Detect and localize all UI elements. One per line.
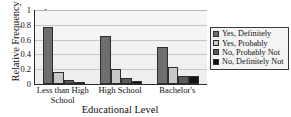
bar [53, 72, 64, 84]
bar [121, 78, 132, 84]
bar [189, 76, 200, 84]
legend-swatch-icon [213, 31, 219, 37]
bar [100, 36, 111, 84]
chart-legend: Yes, DefinitelyYes, ProbablyNo, Probably… [210, 27, 289, 70]
bar [132, 81, 143, 84]
legend-item: Yes, Probably [213, 38, 286, 47]
legend-item-label: Yes, Probably [222, 39, 268, 48]
bar [157, 47, 168, 84]
bars-layer [35, 10, 207, 84]
bar-group [100, 10, 142, 84]
plot-area [34, 10, 207, 85]
x-axis-title: Educational Level [34, 104, 206, 115]
x-tick-label: Less than High School [34, 86, 91, 105]
legend-item-label: Yes, Definitely [222, 29, 271, 38]
legend-item-label: No, Definitely Not [222, 57, 284, 66]
y-tick-label: 0.4 [13, 50, 31, 59]
y-tick-label: 0.2 [13, 65, 31, 74]
y-tick-label: 0.6 [13, 35, 31, 44]
legend-swatch-icon [213, 40, 219, 46]
bar [178, 76, 189, 84]
x-tick-label: High School [91, 86, 148, 96]
bar [168, 67, 179, 84]
bar [74, 82, 85, 84]
legend-swatch-icon [213, 59, 219, 65]
y-tick-label: 1 [13, 6, 31, 15]
y-tick-label: 0 [13, 80, 31, 89]
bar-group [43, 10, 85, 84]
legend-item: No, Definitely Not [213, 57, 286, 66]
y-tick-label: 0.8 [13, 21, 31, 30]
legend-item-label: No, Probably Not [222, 48, 280, 57]
bar [64, 80, 75, 84]
legend-item: No, Probably Not [213, 48, 286, 57]
legend-swatch-icon [213, 49, 219, 55]
legend-item: Yes, Definitely [213, 29, 286, 38]
bar-group [157, 10, 199, 84]
y-axis-ticks: 00.20.40.60.81 [13, 0, 31, 117]
bar [43, 27, 54, 84]
bar [111, 69, 122, 84]
x-tick-label: Bachelor's [149, 86, 206, 96]
relative-frequency-bar-chart: Relative Frequency 00.20.40.60.81 Less t… [0, 0, 291, 117]
